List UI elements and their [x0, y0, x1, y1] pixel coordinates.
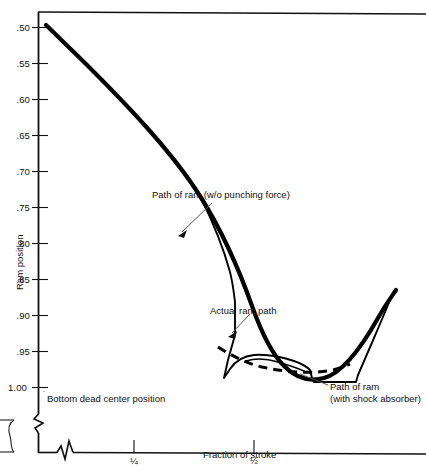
y-tick-label-2: .60 [0, 94, 30, 105]
series-path-of-ram-wo-punching-force [46, 25, 396, 380]
annotation-bottom-dead-center-position: Bottom dead center position [47, 393, 165, 405]
x-axis-break-zigzag [57, 441, 73, 459]
y-tick-label-3: .65 [0, 130, 30, 141]
annotation-path-with-shock-line2: (with shock absorber) [330, 393, 421, 405]
y-tick-label-9: .95 [0, 346, 30, 357]
plot-top-border [38, 12, 426, 14]
x-tick-label-0: ¼ [121, 455, 147, 466]
annotation-path-with-shock-line1: Path of ram [330, 381, 421, 393]
y-axis-title: Ram position [14, 235, 25, 290]
chart-figure: .50 .55 .60 .65 .70 .75 .80 .85 .90 .95 … [0, 0, 426, 467]
y-axis-break-zigzag [34, 414, 43, 433]
y-tick-label-4: .70 [0, 166, 30, 177]
y-tick-label-1: .55 [0, 58, 30, 69]
y-tick-label-8: .90 [0, 310, 30, 321]
y-tick-label-10: 1.00 [0, 382, 27, 393]
y-tick-marks [32, 28, 48, 388]
annotation-actual-ram-path: Actual ram path [210, 305, 277, 317]
annotation-path-without-punching-force: Path of ram (w/o punching force) [152, 189, 290, 201]
series-actual-ram-path [200, 196, 390, 382]
x-axis-title: Fraction of stroke [203, 449, 276, 460]
leader-line-path-wo-punching [182, 203, 212, 232]
annotation-path-with-shock-absorber: Path of ram (with shock absorber) [330, 381, 421, 405]
left-edge-brace [9, 420, 14, 452]
y-tick-label-5: .75 [0, 202, 30, 213]
y-tick-label-0: .50 [0, 22, 30, 33]
